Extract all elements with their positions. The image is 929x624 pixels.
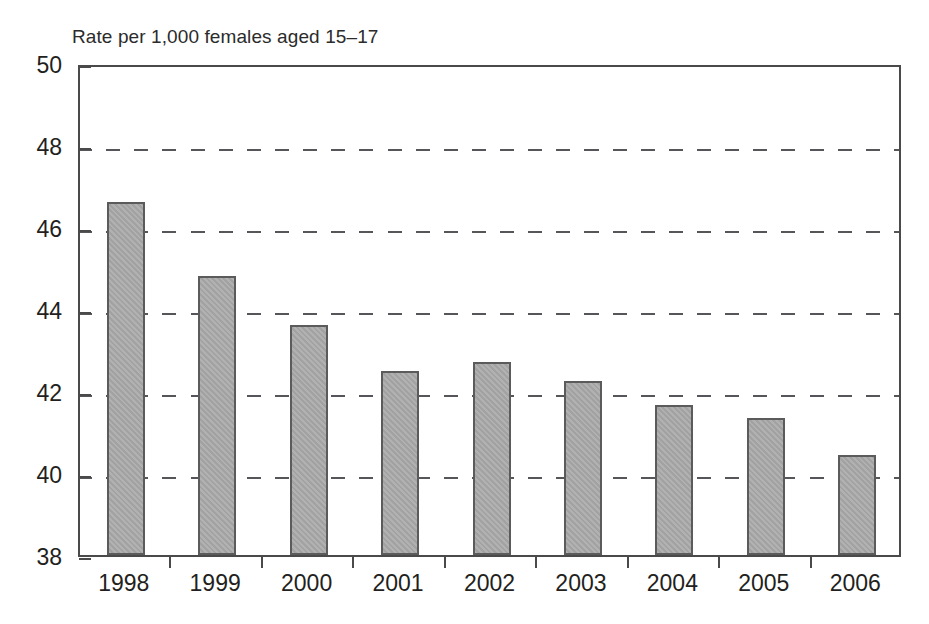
x-axis-label-2006: 2006 — [830, 570, 881, 597]
y-axis-label-50: 50 — [36, 52, 62, 79]
bar-2004 — [655, 405, 693, 555]
y-axis-label-44: 44 — [36, 298, 62, 325]
x-tick-mark-4 — [444, 557, 446, 568]
bar-1999 — [198, 276, 236, 555]
y-tick-mark-42 — [79, 394, 91, 396]
y-axis-label-group: 38404244464850 — [0, 0, 78, 624]
x-axis-label-1998: 1998 — [98, 570, 149, 597]
y-tick-mark-44 — [79, 312, 91, 314]
y-axis-label-42: 42 — [36, 380, 62, 407]
x-axis-label-2003: 2003 — [555, 570, 606, 597]
y-axis-label-40: 40 — [36, 462, 62, 489]
bar-chart-figure: Rate per 1,000 females aged 15–17 384042… — [0, 0, 929, 624]
x-tick-mark-3 — [352, 557, 354, 568]
x-tick-group — [78, 557, 901, 571]
gridline-46 — [80, 231, 899, 233]
bar-2006 — [838, 455, 876, 555]
y-tick-mark-46 — [79, 230, 91, 232]
x-axis-label-2000: 2000 — [281, 570, 332, 597]
bar-2000 — [290, 325, 328, 555]
x-tick-mark-7 — [718, 557, 720, 568]
y-axis-label-38: 38 — [36, 544, 62, 571]
y-tick-mark-50 — [79, 66, 91, 68]
y-axis-label-46: 46 — [36, 216, 62, 243]
x-tick-mark-5 — [535, 557, 537, 568]
chart-axis-title: Rate per 1,000 females aged 15–17 — [72, 26, 378, 48]
y-tick-mark-48 — [79, 148, 91, 150]
plot-area — [78, 65, 901, 557]
y-axis-label-48: 48 — [36, 134, 62, 161]
gridline-48 — [80, 149, 899, 151]
x-tick-mark-1 — [169, 557, 171, 568]
x-axis-label-1999: 1999 — [190, 570, 241, 597]
x-axis-label-2002: 2002 — [464, 570, 515, 597]
bar-2002 — [473, 362, 511, 555]
bar-1998 — [107, 202, 145, 555]
y-tick-mark-40 — [79, 476, 91, 478]
bar-2005 — [747, 418, 785, 555]
bar-2001 — [381, 371, 419, 556]
x-axis-label-2004: 2004 — [647, 570, 698, 597]
x-axis-label-2005: 2005 — [738, 570, 789, 597]
x-axis-label-group: 199819992000200120022003200420052006 — [78, 570, 901, 604]
x-tick-mark-2 — [261, 557, 263, 568]
x-tick-mark-6 — [627, 557, 629, 568]
x-tick-mark-8 — [810, 557, 812, 568]
x-axis-label-2001: 2001 — [372, 570, 423, 597]
bar-2003 — [564, 381, 602, 555]
